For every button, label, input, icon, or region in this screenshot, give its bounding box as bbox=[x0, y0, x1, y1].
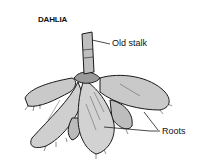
dahlia-tuber-illustration bbox=[0, 0, 198, 166]
old-stalk bbox=[82, 32, 94, 74]
roots-label: Roots bbox=[162, 126, 186, 136]
dahlia-diagram: DAHLIA Old stalk Roots bbox=[0, 0, 198, 166]
roots-leader-line-2 bbox=[144, 112, 158, 130]
stalk-leader-line bbox=[92, 40, 110, 44]
stalk-label: Old stalk bbox=[112, 38, 147, 48]
